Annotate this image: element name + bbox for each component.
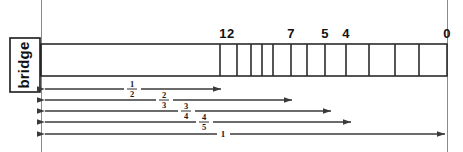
fraction-arrow-two-thirds: 2 3 — [45, 90, 292, 110]
string-bar — [41, 44, 447, 76]
tick-label-group: 12 7 5 4 0 — [219, 26, 451, 41]
fraction-numerator: 2 — [162, 90, 166, 100]
whole-length-label: 1 — [221, 129, 226, 139]
tick-label-7: 7 — [287, 26, 295, 41]
fraction-denominator: 2 — [130, 89, 134, 99]
fraction-numerator: 1 — [130, 79, 134, 89]
fraction-denominator: 4 — [184, 111, 189, 121]
bridge-box: bridge — [10, 38, 40, 92]
fraction-numerator: 4 — [202, 112, 207, 122]
fraction-denominator: 5 — [202, 122, 206, 132]
fraction-arrow-half: 1 2 — [45, 79, 221, 99]
fraction-arrow-three-quarters: 3 4 — [45, 101, 331, 121]
tick-label-5: 5 — [321, 26, 329, 41]
diagram-canvas: 12 7 5 4 0 bridge 1 — [0, 0, 463, 152]
string-bar-outline — [41, 44, 447, 76]
tick-label-0: 0 — [443, 26, 451, 41]
fraction-arrow-four-fifths: 4 5 — [45, 112, 351, 132]
bridge-label: bridge — [15, 41, 32, 88]
fraction-denominator: 3 — [162, 100, 166, 110]
whole-length-arrow: 1 — [45, 129, 445, 139]
fraction-numerator: 3 — [184, 101, 188, 111]
tick-label-12: 12 — [219, 26, 234, 41]
tick-label-4: 4 — [342, 26, 350, 41]
bridge-harmonic-diagram: 12 7 5 4 0 bridge 1 — [0, 0, 463, 152]
